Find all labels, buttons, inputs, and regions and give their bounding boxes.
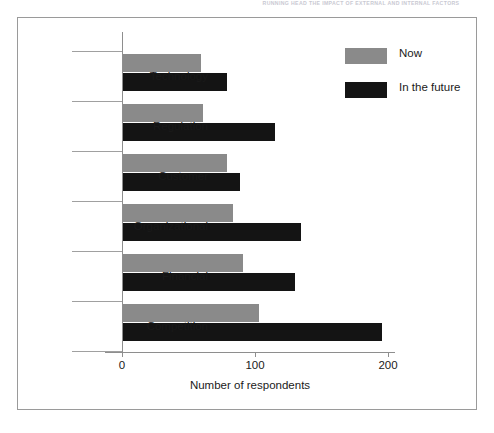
legend-label-in-the-future: In the future	[399, 81, 460, 93]
category-axis-labels: Technology Regulation Customer Organizat…	[53, 32, 208, 352]
category-label-financial: Financial	[58, 270, 208, 282]
x-tick-mark-100	[255, 352, 256, 357]
category-label-technology: Technology	[58, 70, 208, 82]
category-axis-line	[105, 352, 395, 353]
x-tick-label-0: 0	[102, 359, 142, 371]
x-tick-label-100: 100	[235, 359, 275, 371]
chart-legend: Now In the future	[345, 46, 465, 114]
legend-item-in-the-future[interactable]: In the future	[345, 80, 465, 114]
x-tick-mark-200	[388, 352, 389, 357]
page-running-header: RUNNING HEAD THE IMPACT OF EXTERNAL AND …	[236, 0, 486, 7]
category-label-organizational: Organizational	[58, 220, 208, 232]
x-tick-label-200: 200	[368, 359, 408, 371]
x-tick-mark-0	[122, 352, 123, 357]
category-label-competition: Competition	[58, 320, 208, 332]
legend-item-now[interactable]: Now	[345, 46, 465, 80]
category-label-regulation: Regulation	[58, 120, 208, 132]
category-label-customer: Customer	[58, 170, 208, 182]
legend-swatch-now-icon	[345, 48, 387, 64]
legend-swatch-future-icon	[345, 82, 387, 98]
legend-label-now: Now	[399, 47, 422, 59]
x-axis-title: Number of respondents	[105, 379, 395, 391]
